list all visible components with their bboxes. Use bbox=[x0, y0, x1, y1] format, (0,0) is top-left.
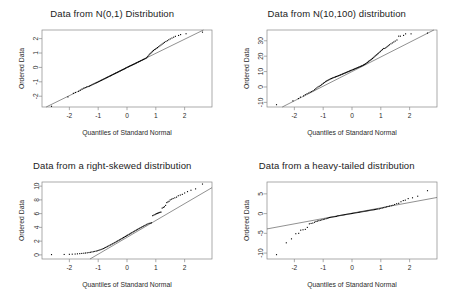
x-tick-label: 2 bbox=[407, 264, 411, 271]
x-tick-label: -1 bbox=[320, 112, 326, 119]
qq-plot-canvas-1: -2-10123020100-10Quantiles of Standard N… bbox=[225, 0, 449, 152]
y-tick-label: 1 bbox=[33, 51, 40, 55]
x-tick-label: 0 bbox=[125, 112, 129, 119]
data-points bbox=[51, 32, 203, 107]
y-tick-label: -2 bbox=[33, 93, 40, 99]
qq-plot-canvas-3: -2-101250-5-10Quantiles of Standard Norm… bbox=[225, 152, 449, 303]
reference-line bbox=[267, 197, 437, 228]
y-tick-label: 30 bbox=[257, 37, 264, 45]
data-points bbox=[275, 190, 427, 255]
y-tick-label: 2 bbox=[33, 36, 40, 40]
qq-plot-canvas-0: -2-1012210-1-2Quantiles of Standard Norm… bbox=[0, 0, 225, 152]
y-tick-label: 4 bbox=[33, 225, 40, 229]
panel-normal-10-100: Data from N(10,100) distribution -2-1012… bbox=[225, 0, 449, 152]
y-tick-label: -5 bbox=[257, 230, 264, 236]
y-axis-title: Ordered Data bbox=[242, 48, 249, 89]
y-tick-label: 5 bbox=[257, 191, 264, 195]
reference-line bbox=[282, 30, 434, 107]
x-tick-label: -2 bbox=[66, 112, 72, 119]
y-tick-label: 10 bbox=[257, 68, 264, 76]
data-points bbox=[51, 183, 203, 255]
x-tick-label: 0 bbox=[350, 264, 354, 271]
x-axis-title: Quantiles of Standard Normal bbox=[307, 129, 397, 137]
y-axis-title: Ordered Data bbox=[18, 199, 25, 240]
y-tick-label: 10 bbox=[33, 182, 40, 190]
y-tick-label: 0 bbox=[33, 252, 40, 256]
y-tick-label: 6 bbox=[33, 211, 40, 215]
x-tick-label: 2 bbox=[183, 112, 187, 119]
x-tick-label: -2 bbox=[291, 112, 297, 119]
x-axis-title: Quantiles of Standard Normal bbox=[82, 129, 172, 137]
y-axis-title: Ordered Data bbox=[18, 48, 25, 89]
panel-heavy-tailed: Data from a heavy-tailed distribution -2… bbox=[225, 152, 449, 303]
x-tick-label: 1 bbox=[378, 264, 382, 271]
x-tick-label: 0 bbox=[125, 264, 129, 271]
y-tick-label: 0 bbox=[257, 211, 264, 215]
x-tick-label: -2 bbox=[66, 264, 72, 271]
x-tick-label: -2 bbox=[291, 264, 297, 271]
panel-normal-01: Data from N(0,1) Distribution -2-1012210… bbox=[0, 0, 225, 152]
data-points bbox=[275, 33, 427, 106]
y-tick-label: -1 bbox=[33, 79, 40, 85]
y-tick-label: -10 bbox=[257, 247, 264, 257]
y-tick-label: -10 bbox=[257, 97, 264, 107]
y-tick-label: 8 bbox=[33, 197, 40, 201]
x-tick-label: -1 bbox=[95, 264, 101, 271]
y-tick-label: 0 bbox=[33, 65, 40, 69]
x-tick-label: 1 bbox=[154, 112, 158, 119]
qq-plot-canvas-2: -2-10121086420Quantiles of Standard Norm… bbox=[0, 152, 225, 303]
panel-right-skewed: Data from a right-skewed distribution -2… bbox=[0, 152, 225, 303]
x-tick-label: 2 bbox=[183, 264, 187, 271]
x-tick-label: 2 bbox=[407, 112, 411, 119]
y-tick-label: 0 bbox=[257, 85, 264, 89]
y-tick-label: 20 bbox=[257, 52, 264, 60]
x-tick-label: 1 bbox=[154, 264, 158, 271]
qq-plot-grid: Data from N(0,1) Distribution -2-1012210… bbox=[0, 0, 449, 303]
x-axis-title: Quantiles of Standard Normal bbox=[307, 281, 397, 289]
y-axis-title: Ordered Data bbox=[242, 199, 249, 240]
y-tick-label: 2 bbox=[33, 238, 40, 242]
x-tick-label: 1 bbox=[378, 112, 382, 119]
x-tick-label: 0 bbox=[350, 112, 354, 119]
x-tick-label: -1 bbox=[95, 112, 101, 119]
x-axis-title: Quantiles of Standard Normal bbox=[82, 281, 172, 289]
x-tick-label: -1 bbox=[320, 264, 326, 271]
